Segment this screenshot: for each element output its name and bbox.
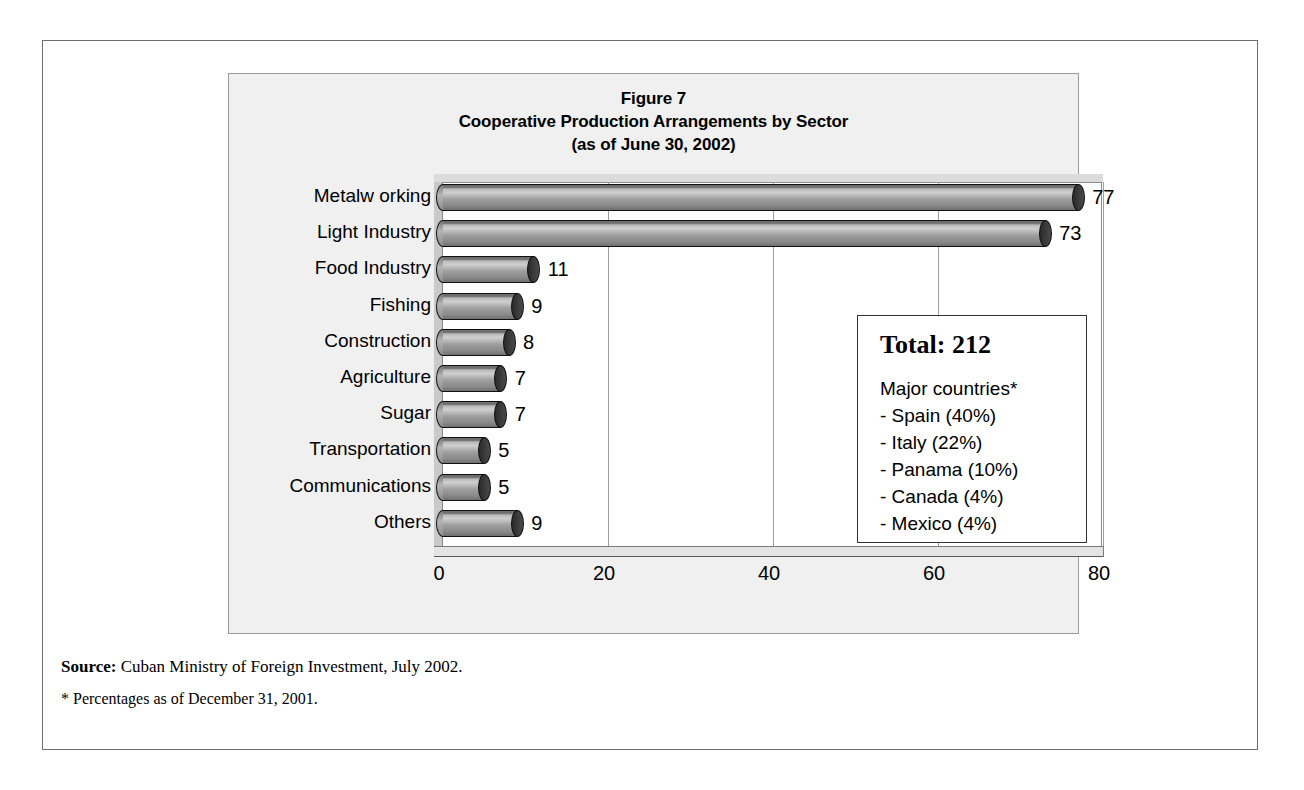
- bar-body: [443, 401, 501, 428]
- bar-value-label: 73: [1059, 222, 1081, 245]
- category-label: Fishing: [370, 294, 431, 316]
- bar-right-cap: [478, 437, 491, 464]
- gridline-80: [1103, 182, 1104, 546]
- major-countries-heading: Major countries*: [880, 376, 1086, 403]
- category-label: Light Industry: [317, 221, 431, 243]
- x-tick-label: 80: [1088, 562, 1110, 585]
- bar-body: [443, 329, 509, 356]
- floor-tick-80: [1103, 546, 1104, 557]
- bar-row: Metalw orking77: [443, 184, 1078, 211]
- bar-row: Food Industry11: [443, 256, 534, 283]
- x-tick-label: 40: [758, 562, 780, 585]
- category-label: Communications: [290, 475, 432, 497]
- source-note: Source: Cuban Ministry of Foreign Invest…: [61, 657, 463, 677]
- bar-value-label: 5: [498, 476, 509, 499]
- bar-value-label: 9: [531, 512, 542, 535]
- bar-value-label: 5: [498, 439, 509, 462]
- figure-subtitle: (as of June 30, 2002): [229, 134, 1078, 157]
- category-label: Sugar: [380, 402, 431, 424]
- percentage-footnote: * Percentages as of December 31, 2001.: [61, 690, 463, 708]
- bar-row: Transportation5: [443, 437, 484, 464]
- bar-right-cap: [478, 474, 491, 501]
- total-label: Total: 212: [880, 330, 1086, 360]
- bar-value-label: 9: [531, 295, 542, 318]
- bar-right-cap: [511, 510, 524, 537]
- bar-right-cap: [1072, 184, 1085, 211]
- bar-value-label: 7: [515, 367, 526, 390]
- bar-right-cap: [503, 329, 516, 356]
- bar-body: [443, 293, 517, 320]
- x-tick-label: 20: [593, 562, 615, 585]
- category-label: Construction: [324, 330, 431, 352]
- figure-notes: Source: Cuban Ministry of Foreign Invest…: [61, 657, 463, 708]
- bar-value-label: 77: [1092, 186, 1114, 209]
- country-item: - Canada (4%): [880, 484, 1086, 511]
- category-label: Others: [374, 511, 431, 533]
- chart-panel: Figure 7 Cooperative Production Arrangem…: [228, 73, 1079, 634]
- x-tick-label: 60: [923, 562, 945, 585]
- bar-body: [443, 365, 501, 392]
- bar-row: Agriculture7: [443, 365, 501, 392]
- major-countries-list: - Spain (40%)- Italy (22%)- Panama (10%)…: [880, 403, 1086, 538]
- bar-body: [443, 220, 1045, 247]
- country-item: - Spain (40%): [880, 403, 1086, 430]
- bar-value-label: 8: [523, 331, 534, 354]
- bar-right-cap: [511, 293, 524, 320]
- country-item: - Mexico (4%): [880, 511, 1086, 538]
- bar-row: Fishing9: [443, 293, 517, 320]
- category-label: Metalw orking: [314, 185, 431, 207]
- bar-right-cap: [1039, 220, 1052, 247]
- source-label: Source:: [61, 657, 116, 676]
- category-label: Agriculture: [340, 366, 431, 388]
- country-item: - Italy (22%): [880, 430, 1086, 457]
- figure-number: Figure 7: [229, 88, 1078, 111]
- bar-row: Others9: [443, 510, 517, 537]
- bar-value-label: 7: [515, 403, 526, 426]
- total-legend-box: Total: 212 Major countries* - Spain (40%…: [857, 315, 1087, 543]
- chart-title-block: Figure 7 Cooperative Production Arrangem…: [229, 88, 1078, 156]
- plot-floor: [434, 546, 1103, 557]
- category-label: Food Industry: [315, 257, 431, 279]
- bar-body: [443, 256, 534, 283]
- bar-row: Sugar7: [443, 401, 501, 428]
- bar-value-label: 11: [548, 258, 569, 281]
- category-label: Transportation: [309, 438, 431, 460]
- bar-body: [443, 510, 517, 537]
- country-item: - Panama (10%): [880, 457, 1086, 484]
- x-tick-label: 0: [433, 562, 444, 585]
- bar-body: [443, 184, 1078, 211]
- bar-row: Light Industry73: [443, 220, 1045, 247]
- source-text: Cuban Ministry of Foreign Investment, Ju…: [116, 657, 462, 676]
- figure-title: Cooperative Production Arrangements by S…: [229, 111, 1078, 134]
- bar-row: Communications5: [443, 474, 484, 501]
- figure-outer-frame: Figure 7 Cooperative Production Arrangem…: [42, 40, 1258, 750]
- bar-row: Construction8: [443, 329, 509, 356]
